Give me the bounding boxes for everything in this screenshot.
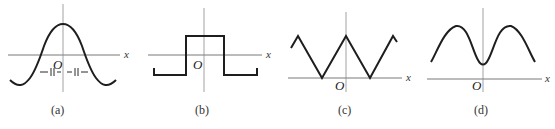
dimension-marks xyxy=(40,68,88,76)
curve-c xyxy=(291,36,397,78)
panel-a: O x (a) xyxy=(8,4,129,117)
origin-label: O xyxy=(335,78,345,93)
panel-d: O x (d) xyxy=(427,8,550,117)
origin-label: O xyxy=(53,57,63,72)
panel-b: O x (b) xyxy=(148,8,271,117)
caption-c: (c) xyxy=(338,103,351,117)
x-axis-label: x xyxy=(123,48,129,60)
origin-label: O xyxy=(472,78,482,93)
waveform-figure: O x (a) O x (b) O x (c) O x (d) xyxy=(0,0,555,129)
curve-b xyxy=(154,36,257,75)
x-axis-label: x xyxy=(405,71,411,83)
x-axis-label: x xyxy=(544,72,550,84)
panel-c: O x (c) xyxy=(288,12,411,117)
x-axis-label: x xyxy=(265,48,271,60)
origin-label: O xyxy=(193,57,203,72)
caption-d: (d) xyxy=(474,103,488,117)
caption-b: (b) xyxy=(195,103,209,117)
caption-a: (a) xyxy=(51,103,64,117)
